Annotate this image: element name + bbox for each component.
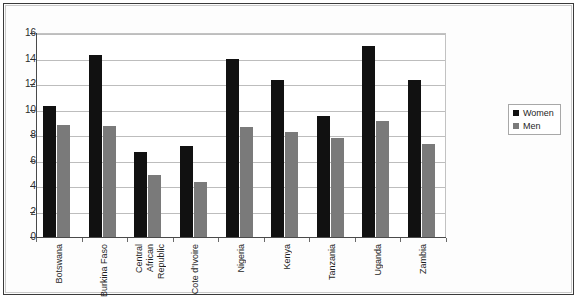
x-axis-category-word: Uganda — [373, 244, 383, 276]
x-tick-mark — [218, 238, 219, 242]
x-axis-category-word: Zambia — [418, 244, 428, 274]
x-axis-category-label: Cote d'Ivoire — [173, 244, 219, 302]
x-axis-category-word: Kenya — [282, 244, 292, 270]
x-tick-mark — [446, 238, 447, 242]
legend-item-women: Women — [513, 108, 554, 118]
x-axis-category-word: Tanzania — [327, 244, 337, 280]
x-axis-category-label: Zambia — [400, 244, 446, 302]
x-axis-category-word: Burkina Faso — [99, 244, 109, 297]
legend-label-women: Women — [523, 108, 554, 118]
x-tick-mark — [355, 238, 356, 242]
x-tick-mark — [400, 238, 401, 242]
x-axis-labels: BotswanaBurkina FasoCentralAfricanRepubl… — [0, 0, 583, 306]
x-tick-mark — [36, 238, 37, 242]
x-tick-mark — [127, 238, 128, 242]
x-axis-category-word: Central — [134, 244, 144, 273]
x-axis-category-label: Uganda — [355, 244, 401, 302]
x-axis-category-label: Kenya — [264, 244, 310, 302]
legend-swatch-men-icon — [513, 123, 519, 129]
x-tick-mark — [82, 238, 83, 242]
x-axis-category-word: Nigeria — [236, 244, 246, 273]
x-axis-category-label: Burkina Faso — [82, 244, 128, 302]
legend-label-men: Men — [523, 121, 541, 131]
x-tick-mark — [264, 238, 265, 242]
legend-item-men: Men — [513, 121, 554, 131]
legend-swatch-women-icon — [513, 110, 519, 116]
x-axis-category-label: CentralAfricanRepublic — [127, 244, 173, 302]
x-axis-category-word: Botswana — [54, 244, 64, 284]
x-axis-category-label: Nigeria — [218, 244, 264, 302]
x-tick-mark — [173, 238, 174, 242]
x-axis-category-label: Tanzania — [309, 244, 355, 302]
x-axis-category-word: Cote d'Ivoire — [190, 244, 200, 294]
x-axis-category-word: Republic — [156, 244, 166, 279]
x-axis-category-label: Botswana — [36, 244, 82, 302]
x-tick-mark — [309, 238, 310, 242]
chart-legend: Women Men — [508, 104, 561, 135]
x-axis-category-word: African — [145, 244, 155, 272]
bar-chart: 0246810121416 BotswanaBurkina FasoCentra… — [0, 0, 583, 306]
chart-screenshot: 0246810121416 BotswanaBurkina FasoCentra… — [0, 0, 583, 306]
